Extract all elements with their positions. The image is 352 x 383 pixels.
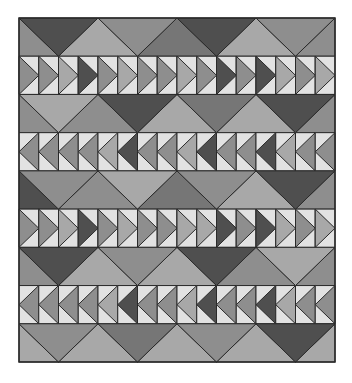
quilt-image: [0, 0, 352, 383]
